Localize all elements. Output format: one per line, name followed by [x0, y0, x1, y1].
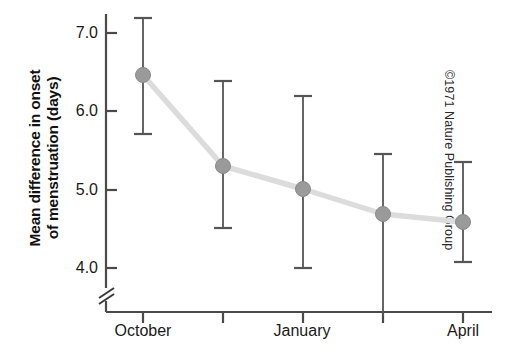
- data-point-marker: [216, 159, 231, 174]
- data-point-marker: [296, 182, 311, 197]
- figure-chart: Mean difference in onset of menstruation…: [0, 0, 518, 353]
- plot-area: [0, 0, 518, 353]
- error-bar-2: [214, 81, 232, 228]
- data-point-marker: [376, 207, 391, 222]
- data-point-marker: [456, 215, 471, 230]
- error-bar-4: [374, 154, 392, 316]
- error-bar-5: [454, 162, 472, 262]
- data-point-marker: [136, 68, 151, 83]
